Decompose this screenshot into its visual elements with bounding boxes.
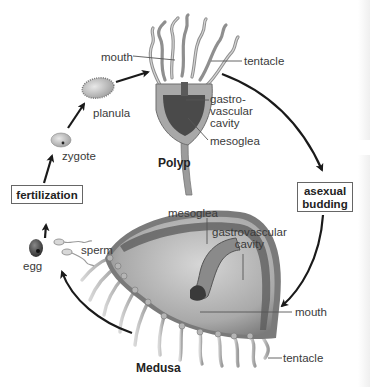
egg-illustration	[29, 239, 43, 257]
medusa-title: Medusa	[136, 361, 181, 375]
polyp-mouth-label: mouth	[101, 51, 133, 63]
polyp-tentacle-label: tentacle	[244, 55, 284, 67]
medusa-gastrovascular-cavity-label: gastrovascular cavity	[212, 226, 287, 250]
medusa-tentacle-label: tentacle	[283, 352, 323, 364]
planula-label: planula	[93, 107, 130, 119]
sperm-label: sperm	[81, 244, 113, 256]
egg-label: egg	[23, 260, 42, 272]
page-edge-gap	[358, 140, 370, 155]
polyp-gastrovascular-cavity-label: gastro- vascular cavity	[210, 93, 253, 129]
page-edge-shadow	[358, 0, 370, 387]
medusa-mouth-label: mouth	[295, 306, 327, 318]
fertilization-box: fertilization	[11, 185, 83, 204]
asexual-budding-box: asexual budding	[297, 182, 353, 212]
zygote-illustration	[51, 133, 71, 147]
planula-illustration	[81, 75, 116, 100]
polyp-mesoglea-label: mesoglea	[210, 135, 260, 147]
medusa-mesoglea-label: mesoglea	[168, 207, 218, 219]
polyp-title: Polyp	[158, 156, 191, 170]
zygote-label: zygote	[62, 150, 96, 162]
